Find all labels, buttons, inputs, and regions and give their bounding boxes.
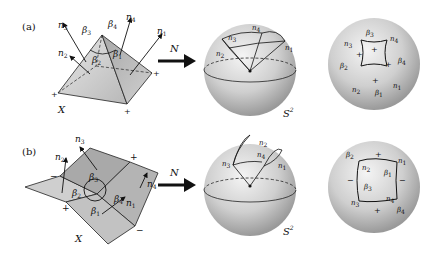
svg-text:β3: β3 xyxy=(363,183,372,192)
svg-text:+: + xyxy=(51,90,58,99)
svg-text:β1: β1 xyxy=(374,89,383,98)
panel-a-label: (a) xyxy=(22,21,36,32)
svg-text:n3: n3 xyxy=(58,20,68,31)
svg-text:+: + xyxy=(153,69,160,78)
svg-text:β4: β4 xyxy=(396,206,405,215)
svg-text:β3: β3 xyxy=(365,29,374,38)
svg-text:β1: β1 xyxy=(383,169,392,178)
svg-text:n2: n2 xyxy=(362,164,371,173)
svg-text:n2: n2 xyxy=(58,48,68,59)
svg-text:S2: S2 xyxy=(283,106,294,119)
svg-text:−: − xyxy=(399,176,406,185)
svg-text:+: + xyxy=(374,206,381,215)
pyramid-surface xyxy=(58,35,152,104)
sphere-b-side: n3 n2 n4 n1 S2 xyxy=(204,135,296,237)
svg-text:n3: n3 xyxy=(351,199,360,208)
sphere-a-top: ++ ++ n3 β3 n4 β4 β2 n2 β1 n1 xyxy=(328,18,420,110)
svg-text:β2: β2 xyxy=(339,62,348,71)
svg-text:n1: n1 xyxy=(157,26,167,37)
svg-text:N: N xyxy=(169,43,180,54)
svg-text:β3: β3 xyxy=(81,25,91,36)
svg-text:n2: n2 xyxy=(259,139,268,148)
panel-b-label: (b) xyxy=(22,146,36,157)
svg-text:N: N xyxy=(169,167,180,178)
svg-text:+: + xyxy=(356,50,363,59)
sphere-b-top: ++ −− β2 n2 β3 n3 n1 β1 n4 β4 xyxy=(328,141,420,233)
panel-b: (b) n2 n3 n1 n4 β3 β2 β4 β1 −+ +− X xyxy=(22,134,420,244)
svg-text:n1: n1 xyxy=(285,44,293,53)
svg-text:n2: n2 xyxy=(216,50,225,59)
surface-label-b: X xyxy=(74,233,83,244)
svg-text:+: + xyxy=(371,45,378,54)
svg-text:n3: n3 xyxy=(222,160,231,169)
svg-text:+: + xyxy=(62,203,70,213)
svg-text:+: + xyxy=(385,60,392,69)
svg-text:n4: n4 xyxy=(126,12,136,23)
svg-text:β4: β4 xyxy=(107,19,117,30)
svg-text:n3: n3 xyxy=(344,40,353,49)
svg-text:+: + xyxy=(130,152,138,162)
svg-text:+: + xyxy=(124,107,131,116)
svg-text:−: − xyxy=(136,225,144,235)
svg-text:n4: n4 xyxy=(390,35,399,44)
panel-a: (a) n3 n2 n4 n1 β3 β4 β2 β1 xyxy=(22,12,420,119)
sphere-a-side: n3 n2 n4 n1 S2 xyxy=(204,24,296,119)
svg-text:S2: S2 xyxy=(283,224,294,237)
svg-text:n2: n2 xyxy=(55,152,65,163)
svg-text:n3: n3 xyxy=(75,134,85,145)
svg-text:n4: n4 xyxy=(147,179,157,190)
svg-text:−: − xyxy=(347,176,354,185)
svg-text:β2: β2 xyxy=(345,151,354,160)
svg-text:β4: β4 xyxy=(397,57,406,66)
svg-text:+: + xyxy=(375,150,382,159)
gauss-map-figure: (a) n3 n2 n4 n1 β3 β4 β2 β1 xyxy=(0,0,445,253)
surface-label-a: X xyxy=(57,104,66,115)
svg-text:n1: n1 xyxy=(393,82,401,91)
svg-text:n3: n3 xyxy=(228,34,237,43)
gauss-map-arrow-a: N xyxy=(158,43,196,68)
svg-text:n1: n1 xyxy=(278,162,286,171)
svg-text:n4: n4 xyxy=(257,151,266,160)
svg-text:n4: n4 xyxy=(386,195,395,204)
svg-text:−: − xyxy=(50,171,58,181)
svg-text:n2: n2 xyxy=(352,86,361,95)
svg-text:+: + xyxy=(372,76,379,85)
svg-text:n4: n4 xyxy=(252,24,261,33)
svg-text:n1: n1 xyxy=(398,157,406,166)
gauss-map-arrow-b: N xyxy=(158,167,196,192)
